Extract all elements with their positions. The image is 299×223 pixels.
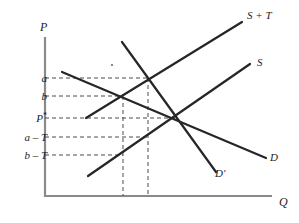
supply-curve-label: S: [257, 57, 263, 68]
supply-plus-tax-curve: [86, 22, 242, 118]
price-tick-label-pstar: P*: [36, 112, 47, 125]
demand-prime-curve: [122, 42, 216, 172]
price-axis-label: P: [40, 21, 47, 33]
supply-demand-diagram: P Q a b P* a – T b – T S + T S D D': [0, 0, 299, 223]
print-speck: [111, 64, 113, 66]
price-tick-label-a-minus-t: a – T: [24, 132, 47, 143]
supply-curve: [88, 64, 250, 176]
price-tick-label-a: a: [42, 73, 48, 84]
quantity-axis-label: Q: [279, 196, 288, 208]
demand-prime-curve-label: D': [215, 168, 225, 179]
price-tick-label-b-minus-t: b – T: [24, 150, 47, 161]
demand-curve-label: D: [270, 152, 278, 163]
price-tick-label-b: b: [42, 91, 48, 102]
supply-plus-tax-curve-label: S + T: [247, 10, 272, 21]
